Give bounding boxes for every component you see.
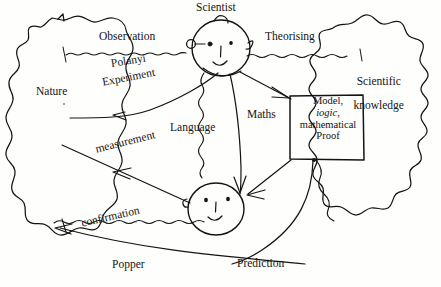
- scientist-hair-tuft: [214, 16, 228, 23]
- model-to-knowledge-squiggle: [316, 160, 334, 221]
- model-to-face-arrow-line: [248, 160, 291, 194]
- label-scientific-knowledge-line1: Scientific: [357, 75, 401, 87]
- paper-speck-2: [135, 221, 136, 222]
- theorising-wavy-line: [247, 55, 347, 58]
- scientist-mouth: [213, 61, 227, 65]
- scientist-left-hand: [187, 40, 196, 49]
- maths-down-arrow-line: [230, 74, 241, 194]
- label-prediction: Prediction: [237, 257, 284, 269]
- label-scientist: Scientist: [196, 1, 236, 13]
- scientist-nose: [221, 46, 222, 57]
- maths-to-model-arrowhead: [272, 87, 289, 98]
- lower-wavy-boundary: [54, 221, 204, 224]
- measurement-arrow-line: [62, 145, 190, 203]
- label-maths: Maths: [247, 108, 276, 120]
- nature-blob-shape: [6, 16, 133, 235]
- model-box-line2: iogic: [316, 107, 337, 118]
- observer-eye-right: [226, 197, 230, 201]
- label-nature: Nature: [36, 85, 67, 97]
- observer-mouth: [208, 216, 222, 220]
- observer-eye-left: [204, 198, 208, 202]
- label-popper: Popper: [112, 258, 145, 270]
- paper-speck-1: [63, 103, 65, 105]
- theorising-line-head: [360, 49, 362, 61]
- diagram-canvas: Scientist Nature Observation Theorising …: [0, 0, 441, 287]
- model-box-line1: Model,: [313, 95, 343, 106]
- model-box-comma: ,: [337, 107, 340, 118]
- model-box-bottom-node: [312, 158, 316, 162]
- scientist-eye-right: [229, 41, 233, 45]
- observation-line-tail: [63, 47, 66, 62]
- model-to-face-arrowhead: [247, 190, 265, 199]
- label-language: Language: [170, 121, 215, 133]
- diagram-drawing: [0, 0, 441, 287]
- model-box-line3: mathematical: [300, 119, 357, 130]
- label-theorising: Theorising: [265, 30, 315, 42]
- model-box-text: Model, iogic, mathematical Proof: [292, 95, 364, 142]
- label-observation: Observation: [99, 30, 155, 42]
- observer-nose: [216, 202, 217, 212]
- model-box-line4: Proof: [316, 130, 339, 141]
